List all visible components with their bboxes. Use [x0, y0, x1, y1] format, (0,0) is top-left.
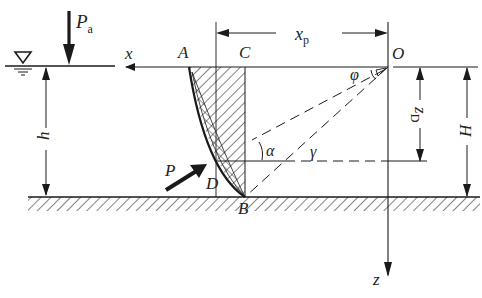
z-axis-arrowhead	[384, 262, 392, 277]
label-x: x	[124, 44, 133, 63]
dimension-h	[42, 67, 50, 196]
atmospheric-pressure-arrow	[63, 11, 75, 65]
label-P: P	[164, 161, 175, 180]
label-alpha: α	[266, 142, 275, 159]
water-level-icon	[14, 52, 32, 75]
dashed-line-OD	[252, 70, 384, 140]
label-xp: xp	[294, 24, 309, 47]
label-gamma: γ	[310, 143, 317, 161]
label-phi: φ	[350, 66, 359, 84]
label-C: C	[239, 43, 251, 62]
label-A: A	[177, 43, 189, 62]
hydrostatic-diagram: Pa x h A C xp z O zD	[0, 0, 482, 298]
label-O: O	[392, 44, 404, 63]
label-z: z	[372, 270, 380, 289]
label-B: B	[238, 199, 249, 218]
label-D: D	[205, 174, 219, 193]
ground-hatch	[28, 197, 480, 211]
alpha-angle-arc	[259, 142, 263, 160]
label-h: h	[34, 132, 53, 141]
label-H: H	[456, 123, 475, 138]
label-Pa: Pa	[75, 11, 94, 36]
label-zD: zD	[408, 106, 430, 123]
